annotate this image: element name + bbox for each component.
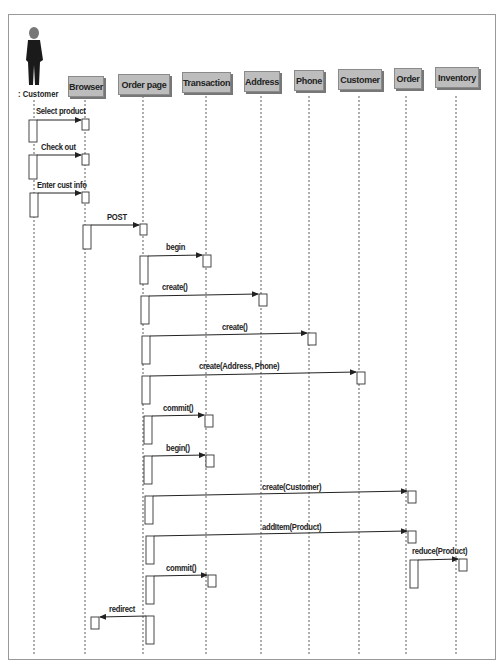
message-label: addItem(Product) (262, 522, 321, 532)
lifeline-header-customer: Customer (338, 69, 382, 90)
lifeline-header-transaction: Transaction (182, 72, 231, 93)
message-label: Select product (36, 106, 86, 116)
activation-bars (29, 119, 467, 644)
message-label: commit() (166, 563, 196, 573)
lifeline-header-inventory: Inventory (435, 67, 479, 88)
lifelines (34, 96, 456, 655)
lifeline-header-order-page: Order page (118, 74, 170, 95)
message-label: Enter cust info (37, 180, 87, 190)
message-label: reduce(Product) (412, 546, 467, 556)
customer-actor-icon (26, 27, 43, 85)
sequence-diagram-canvas (0, 0, 504, 668)
message-label: create() (162, 282, 188, 292)
message-label: begin() (166, 443, 190, 453)
message-label: Check out (41, 142, 76, 152)
lifeline-header-address: Address (244, 71, 280, 92)
lifeline-header-browser: Browser (68, 76, 104, 97)
message-label: commit() (163, 403, 193, 413)
message-label: create() (222, 322, 248, 332)
message-label: create(Customer) (262, 482, 321, 492)
message-label: begin (166, 242, 185, 252)
message-label: POST (107, 212, 127, 222)
lifeline-header-phone: Phone (294, 70, 324, 91)
actor-label: : Customer (18, 89, 58, 99)
message-label: create(Address, Phone) (199, 361, 279, 371)
message-label: redirect (109, 604, 135, 614)
lifeline-header-order: Order (394, 68, 422, 89)
